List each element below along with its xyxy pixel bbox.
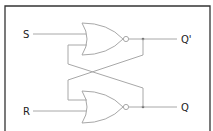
r-label: R — [23, 106, 30, 117]
s-label: S — [23, 29, 29, 40]
q-bar-label: Q' — [181, 34, 192, 45]
nor-gate-bottom — [82, 91, 129, 123]
nor-gate-top — [82, 23, 129, 55]
inversion-bubble-bottom — [123, 104, 128, 109]
sr-latch-diagram: S R Q' Q — [0, 0, 213, 131]
q-label: Q — [181, 102, 189, 113]
inversion-bubble-top — [123, 36, 128, 41]
